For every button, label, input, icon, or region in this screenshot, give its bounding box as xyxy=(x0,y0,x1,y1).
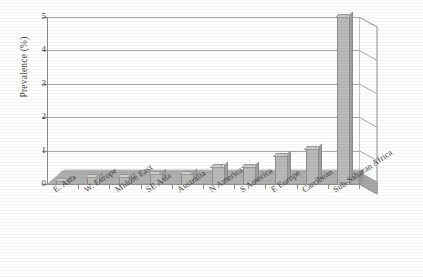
bar-series xyxy=(47,17,359,184)
y-tick-label-4: 4 xyxy=(22,44,46,54)
y-tick-label-0: 0 xyxy=(22,178,46,188)
y-tick-label-3: 3 xyxy=(22,78,46,88)
bar-side-face xyxy=(349,12,353,181)
bar-top-face xyxy=(210,164,224,168)
y-tick-label-5: 5 xyxy=(22,11,46,21)
y-tick-label-1: 1 xyxy=(22,145,46,155)
bar-top-face xyxy=(241,164,255,168)
x-tick-9 xyxy=(359,184,360,189)
y-axis-title: Prevalence (%) xyxy=(19,7,29,127)
prevalence-bar-chart: Prevalence (%) xyxy=(0,0,423,277)
y-tick-label-2: 2 xyxy=(22,111,46,121)
bar-sub-saharan-africa xyxy=(337,17,350,184)
x-axis-labels: E. AsiaW. EuropeMiddle EastSE AsiaAustra… xyxy=(47,186,359,276)
bar-top-face xyxy=(273,153,287,157)
bar-top-face xyxy=(304,146,318,150)
plot-area: 5 4 3 2 1 0 xyxy=(47,17,359,184)
bar-top-face xyxy=(335,14,349,18)
